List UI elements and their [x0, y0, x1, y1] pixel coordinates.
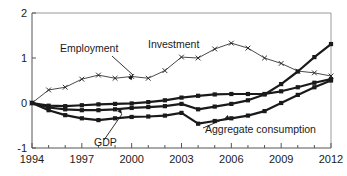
data-point-marker	[163, 98, 167, 102]
data-point-marker	[130, 115, 134, 119]
data-point-marker	[312, 85, 316, 89]
data-point-marker	[146, 105, 150, 109]
data-point-marker	[246, 92, 250, 96]
x-axis-tick-label: 2003	[169, 153, 193, 165]
data-point-marker	[213, 105, 217, 109]
data-point-marker	[113, 102, 117, 106]
data-point-marker	[30, 101, 34, 105]
data-point-marker	[130, 106, 134, 110]
chart-figure: 210-1 1994199720002003200620092012 Emplo…	[0, 0, 347, 176]
data-point-marker	[80, 116, 84, 120]
data-point-marker	[63, 107, 67, 111]
line-chart: 210-1 1994199720002003200620092012 Emplo…	[0, 0, 347, 176]
data-point-marker	[279, 101, 283, 105]
data-point-marker	[196, 107, 200, 111]
x-axis-tick-label: 2012	[319, 153, 343, 165]
y-axis-tick-label: 2	[21, 7, 27, 19]
data-point-marker	[213, 92, 217, 96]
x-axis-tick-label: 2009	[269, 153, 293, 165]
x-axis-tick-label: 1994	[20, 153, 44, 165]
data-point-marker	[179, 96, 183, 100]
data-point-marker	[229, 116, 233, 120]
x-axis-tick-label: 2000	[119, 153, 143, 165]
y-axis-tick-label: 1	[21, 52, 27, 64]
series-annotation-label: GDP	[94, 136, 117, 148]
series-annotation-label: Investment	[148, 38, 199, 50]
data-point-marker	[196, 122, 200, 126]
data-point-marker	[296, 69, 300, 73]
data-point-marker	[312, 81, 316, 85]
data-point-marker	[312, 55, 316, 59]
data-point-marker	[96, 102, 100, 106]
data-point-marker	[146, 100, 150, 104]
data-point-marker	[179, 102, 183, 106]
data-point-marker	[296, 85, 300, 89]
data-point-marker	[80, 103, 84, 107]
data-point-marker	[246, 98, 250, 102]
data-point-marker	[80, 108, 84, 112]
data-point-marker	[179, 111, 183, 115]
data-point-marker	[113, 107, 117, 111]
data-point-marker	[229, 102, 233, 106]
data-point-marker	[279, 82, 283, 86]
data-point-marker	[246, 114, 250, 118]
data-point-marker	[196, 94, 200, 98]
data-point-marker	[329, 78, 333, 82]
data-point-marker	[146, 114, 150, 118]
data-point-marker	[262, 92, 266, 96]
data-point-marker	[262, 109, 266, 113]
data-point-marker	[329, 42, 333, 46]
data-point-marker	[63, 113, 67, 117]
y-axis-tick-label: 0	[21, 97, 27, 109]
data-point-marker	[113, 116, 117, 120]
data-point-marker	[296, 93, 300, 97]
x-axis-tick-label: 2006	[219, 153, 243, 165]
data-point-marker	[47, 108, 51, 112]
data-point-marker	[96, 118, 100, 122]
data-point-marker	[229, 92, 233, 96]
data-point-marker	[130, 101, 134, 105]
series-annotation-label: Employment	[60, 42, 118, 54]
data-point-marker	[279, 89, 283, 93]
x-axis-tick-label: 1997	[70, 153, 94, 165]
data-point-marker	[163, 114, 167, 118]
series-annotation-label: Aggregate consumption	[205, 123, 316, 135]
data-point-marker	[96, 108, 100, 112]
data-point-marker	[163, 104, 167, 108]
